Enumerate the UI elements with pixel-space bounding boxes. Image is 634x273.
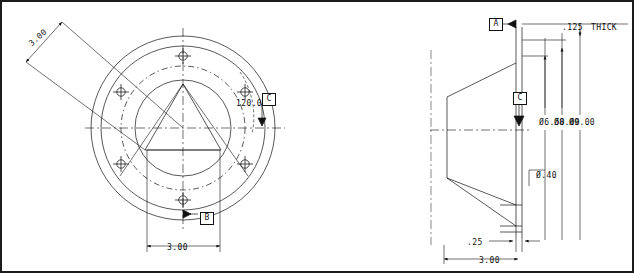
cone-upper-taper <box>447 63 516 97</box>
datum-flag-c: C <box>262 93 276 106</box>
dim-3-00-bottom <box>147 150 220 252</box>
dim-25-bottom <box>489 238 540 252</box>
dim-diameter-leaders <box>522 40 566 56</box>
bolt-hole-upper-left <box>113 84 129 100</box>
bolt-hole-upper-right <box>237 84 253 100</box>
dim-diameter-arrows <box>545 48 562 108</box>
bolt-hole-lower-left <box>113 156 129 172</box>
dim-text-depth-25: .25 <box>467 238 483 247</box>
datum-flag-a: A <box>489 18 503 31</box>
dim-text-hole-diameter-40: Ø.40 <box>536 171 557 180</box>
dim-diameter-witness-lines <box>545 30 580 240</box>
technical-drawing-canvas <box>0 0 634 273</box>
datum-flag-c-side: C <box>513 92 527 105</box>
bolt-hole-top <box>175 48 191 64</box>
datum-c-leader-side <box>514 103 524 126</box>
dim-text-thickness-125: .125 <box>562 23 583 32</box>
dim-text-overall-3-00: 3.00 <box>479 256 500 265</box>
datum-b-leader <box>183 210 198 218</box>
cone-lower-taper-2 <box>447 178 516 226</box>
dim-text-thick-note: THICK <box>591 23 617 32</box>
bolt-hole-bottom <box>175 192 191 208</box>
front-view-centerlines <box>85 28 285 232</box>
dim-text-width-3-00: 3.00 <box>167 243 188 252</box>
datum-flag-b: B <box>200 212 214 225</box>
triangle-leaders <box>120 84 248 176</box>
drawing-sheet: 3.00 120.00 3.00 .125 THICK Ø6.50 Ø8.00 … <box>0 0 634 273</box>
side-view-geometry <box>447 27 522 238</box>
datum-a-leader <box>502 20 516 28</box>
bolt-hole-lower-right <box>237 156 253 172</box>
cone-lower-taper <box>447 178 516 205</box>
dim-text-diameter-9-00: Ø9.00 <box>569 118 595 127</box>
